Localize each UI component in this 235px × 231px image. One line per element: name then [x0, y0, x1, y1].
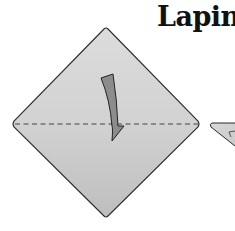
step1-diamond [13, 28, 199, 217]
paper-square [13, 28, 199, 217]
origami-diagram [0, 0, 235, 231]
step2-triangle [210, 123, 235, 150]
